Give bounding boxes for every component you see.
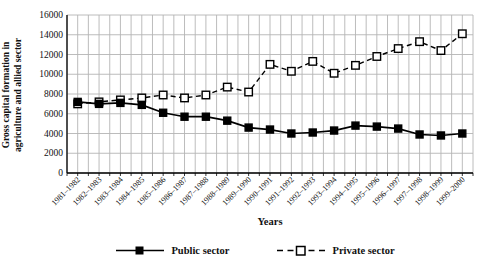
private-sector-marker [288, 68, 296, 76]
public-sector-marker [331, 127, 338, 134]
private-sector-marker [266, 61, 274, 69]
y-tick-label: 14000 [39, 30, 63, 40]
public-sector-marker [459, 130, 466, 137]
y-axis-title-line1: Gross capital formation in [0, 9, 12, 181]
y-tick-label: 16000 [39, 10, 63, 20]
public-sector-marker [373, 123, 380, 130]
y-tick-label: 2000 [44, 148, 63, 158]
private-sector-marker [138, 94, 146, 102]
chart-figure: 0200040006000800010000120001400016000198… [0, 0, 481, 272]
legend-label-public-sector: Public sector [171, 245, 229, 256]
y-axis-title: Gross capital formation in agriculture a… [0, 9, 28, 181]
public-sector-marker [416, 131, 423, 138]
public-sector-legend-marker-icon [116, 245, 164, 256]
public-sector-marker [288, 130, 295, 137]
public-sector-marker [267, 126, 274, 133]
public-sector-marker [309, 129, 316, 136]
y-tick-label: 4000 [44, 129, 63, 139]
public-sector-marker [437, 132, 444, 139]
public-sector-marker [96, 100, 103, 107]
public-sector-marker [224, 117, 231, 124]
private-sector-marker [437, 47, 445, 55]
public-sector-marker [202, 113, 209, 120]
public-sector-marker [181, 113, 188, 120]
y-tick-label: 0 [58, 168, 63, 178]
private-sector-marker [352, 62, 360, 70]
y-tick-label: 10000 [39, 69, 63, 79]
y-tick-label: 8000 [44, 89, 63, 99]
private-sector-marker [416, 38, 424, 46]
legend-item-public-sector: Public sector [116, 245, 229, 256]
private-sector-marker [224, 83, 232, 91]
public-sector-marker [245, 124, 252, 131]
private-sector-marker [394, 45, 402, 53]
chart-plot-area: 0200040006000800010000120001400016000198… [0, 0, 481, 272]
private-sector-marker [459, 30, 467, 38]
private-sector-marker [309, 58, 317, 66]
private-sector-marker [202, 91, 210, 99]
private-sector-marker [373, 53, 381, 61]
private-sector-legend-marker-icon [277, 245, 325, 256]
legend: Public sector Private sector [0, 245, 481, 256]
public-sector-marker [352, 122, 359, 129]
y-tick-label: 12000 [39, 50, 63, 60]
private-sector-marker [245, 88, 253, 96]
y-axis-title-line2: agriculture and allied sector [12, 9, 24, 181]
y-tick-label: 6000 [44, 109, 63, 119]
public-sector-marker [117, 99, 124, 106]
public-sector-marker [74, 98, 81, 105]
public-sector-marker [395, 125, 402, 132]
private-sector-marker [181, 94, 189, 102]
x-axis-title: Years [67, 216, 473, 227]
private-sector-marker [330, 70, 338, 78]
legend-label-private-sector: Private sector [332, 245, 394, 256]
legend-item-private-sector: Private sector [277, 245, 394, 256]
public-sector-marker [160, 109, 167, 116]
private-sector-marker [159, 91, 167, 99]
public-sector-marker [138, 101, 145, 108]
